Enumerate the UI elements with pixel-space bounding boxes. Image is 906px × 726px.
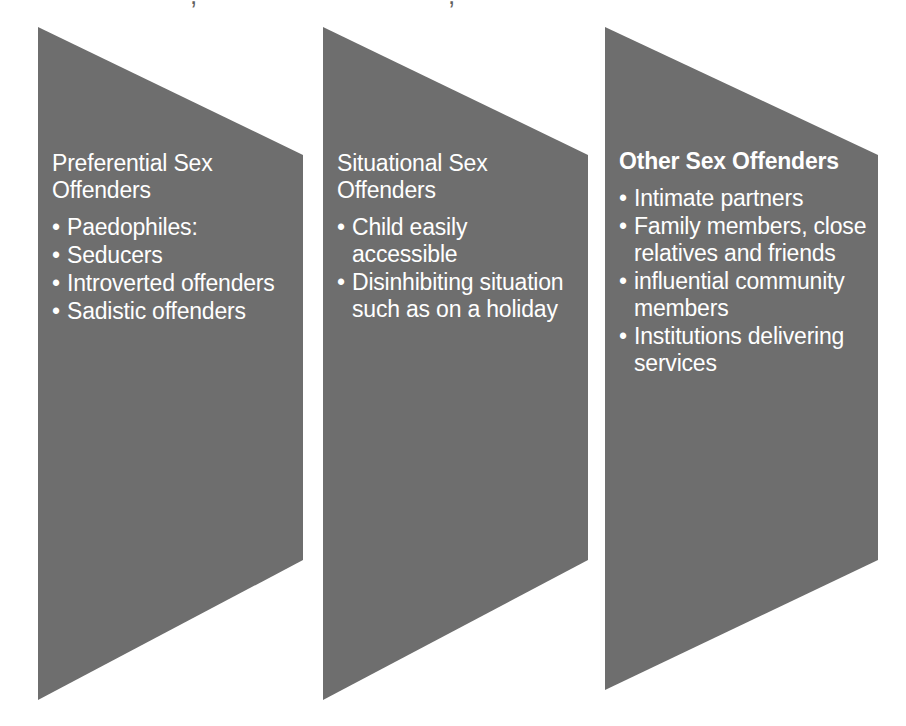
list-item: •Seducers xyxy=(52,242,287,269)
list-item-label: Intimate partners xyxy=(634,185,803,211)
chevron-shape-situational xyxy=(323,27,588,700)
list-item: •Disinhibiting situation such as on a ho… xyxy=(337,269,572,323)
panel-situational-sex-offenders: Situational Sex Offenders •Child easily … xyxy=(337,150,572,324)
list-item: •Introverted offenders xyxy=(52,270,287,297)
list-item-label: Family members, close relatives and frie… xyxy=(634,213,866,266)
list-item: •Intimate partners xyxy=(619,185,867,212)
panel-preferential-sex-offenders: Preferential Sex Offenders •Paedophiles:… xyxy=(52,150,287,326)
list-item-label: Seducers xyxy=(67,242,163,268)
bullet-icon: • xyxy=(337,269,345,296)
bullet-icon: • xyxy=(619,323,627,350)
list-item: •Institutions delivering services xyxy=(619,323,867,377)
bullet-icon: • xyxy=(52,298,60,325)
list-item-label: Introverted offenders xyxy=(67,270,275,296)
diagram-canvas: , , Preferential Sex Offenders •Paedophi… xyxy=(0,0,906,726)
chevron-shape-preferential xyxy=(38,27,303,700)
list-item: •Family members, close relatives and fri… xyxy=(619,213,867,267)
bullet-icon: • xyxy=(52,242,60,269)
list-item-label: Disinhibiting situation such as on a hol… xyxy=(352,269,563,322)
panel-title: Preferential Sex Offenders xyxy=(52,150,287,204)
list-item-label: Paedophiles: xyxy=(67,214,198,240)
clipped-text-fragment-right: , xyxy=(448,0,455,9)
clipped-top-text: , , xyxy=(0,0,906,9)
panel-other-sex-offenders: Other Sex Offenders •Intimate partners •… xyxy=(619,148,867,378)
bullet-icon: • xyxy=(52,270,60,297)
list-item-label: Sadistic offenders xyxy=(67,298,246,324)
panel-title: Situational Sex Offenders xyxy=(337,150,572,204)
panel-title: Other Sex Offenders xyxy=(619,148,867,175)
bullet-icon: • xyxy=(52,214,60,241)
list-item-label: influential community members xyxy=(634,268,845,321)
bullet-icon: • xyxy=(619,185,627,212)
list-item: •Sadistic offenders xyxy=(52,298,287,325)
list-item: •Paedophiles: xyxy=(52,214,287,241)
list-item: •Child easily accessible xyxy=(337,214,572,268)
panel-bullet-list: •Paedophiles: •Seducers •Introverted off… xyxy=(52,214,287,325)
list-item-label: Child easily accessible xyxy=(352,214,467,267)
clipped-text-fragment-left: , xyxy=(190,0,197,9)
list-item: •influential community members xyxy=(619,268,867,322)
bullet-icon: • xyxy=(619,268,627,295)
bullet-icon: • xyxy=(337,214,345,241)
list-item-label: Institutions delivering services xyxy=(634,323,844,376)
panel-bullet-list: •Child easily accessible •Disinhibiting … xyxy=(337,214,572,323)
bullet-icon: • xyxy=(619,213,627,240)
panel-bullet-list: •Intimate partners •Family members, clos… xyxy=(619,185,867,377)
